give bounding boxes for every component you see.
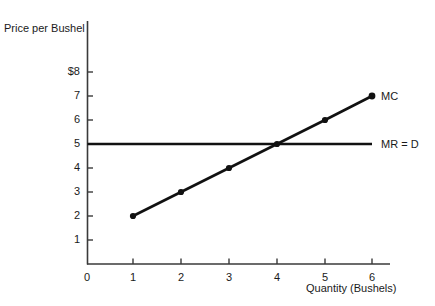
x-tick-label-2: 2 — [171, 272, 191, 283]
x-tick-label-4: 4 — [267, 272, 287, 283]
y-axis-ticks — [88, 72, 94, 240]
x-tick-label-5: 5 — [315, 272, 335, 283]
mr-d-curve-label: MR = D — [381, 139, 419, 150]
x-tick-label-6: 6 — [362, 272, 382, 283]
x-tick-label-1: 1 — [123, 272, 143, 283]
x-axis-ticks — [133, 259, 372, 265]
y-tick-label-7: 7 — [52, 90, 80, 101]
y-tick-label-1: 1 — [52, 234, 80, 245]
y-tick-label-5: 5 — [52, 138, 80, 149]
mc-point-6 — [369, 93, 376, 100]
marginal-cost-chart: Price per Bushel Quantity (Bushels) $8 7… — [0, 0, 435, 306]
y-tick-label-2: 2 — [52, 210, 80, 221]
y-axis-title: Price per Bushel — [4, 23, 85, 34]
mc-point-1 — [130, 213, 136, 219]
y-tick-label-4: 4 — [52, 162, 80, 173]
mc-point-5 — [322, 117, 328, 123]
x-axis-title: Quantity (Bushels) — [306, 283, 396, 294]
mc-curve-label: MC — [381, 91, 398, 102]
mc-point-4 — [274, 141, 280, 147]
mc-point-2 — [178, 189, 184, 195]
x-tick-label-0: 0 — [77, 272, 97, 283]
x-tick-label-3: 3 — [219, 272, 239, 283]
mc-curve-line — [133, 96, 372, 216]
y-tick-label-3: 3 — [52, 186, 80, 197]
chart-canvas — [0, 0, 435, 306]
mc-point-3 — [226, 165, 232, 171]
y-tick-label-6: 6 — [52, 114, 80, 125]
y-tick-label-8: $8 — [52, 66, 80, 77]
